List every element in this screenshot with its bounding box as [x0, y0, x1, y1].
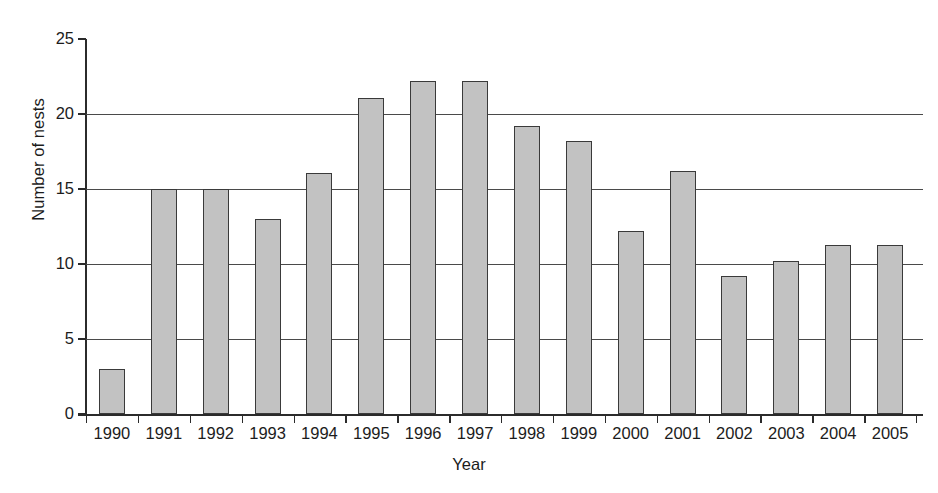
x-tick-8	[501, 415, 502, 423]
x-tick-label-1990: 1990	[84, 424, 140, 442]
bar-2003	[773, 261, 799, 414]
y-axis-title: Number of nests	[29, 60, 48, 260]
bar-1998	[514, 126, 540, 414]
x-tick-7	[449, 415, 450, 423]
y-tick-label-20: 20	[26, 105, 74, 122]
x-tick-label-2004: 2004	[810, 424, 866, 442]
x-tick-label-1998: 1998	[499, 424, 555, 442]
x-tick-label-1994: 1994	[291, 424, 347, 442]
x-tick-4	[294, 415, 295, 423]
x-tick-0	[86, 415, 87, 423]
bar-1999	[566, 141, 592, 414]
x-tick-label-1997: 1997	[447, 424, 503, 442]
bar-1991	[151, 189, 177, 414]
bar-1997	[462, 81, 488, 414]
bar-1994	[306, 173, 332, 415]
y-tick-0	[78, 413, 86, 415]
y-tick-25	[78, 38, 86, 40]
x-tick-1	[138, 415, 139, 423]
x-tick-2	[190, 415, 191, 423]
x-tick-label-1992: 1992	[188, 424, 244, 442]
y-axis-line	[85, 39, 87, 415]
y-tick-10	[78, 263, 86, 265]
y-tick-5	[78, 338, 86, 340]
y-tick-label-0: 0	[26, 405, 74, 422]
x-tick-10	[605, 415, 606, 423]
x-tick-label-1993: 1993	[240, 424, 296, 442]
x-axis-title: Year	[0, 455, 938, 474]
x-tick-label-2002: 2002	[706, 424, 762, 442]
bar-1992	[203, 189, 229, 414]
x-tick-label-2005: 2005	[862, 424, 918, 442]
y-tick-label-25: 25	[26, 30, 74, 47]
x-tick-5	[345, 415, 346, 423]
bar-2000	[618, 231, 644, 414]
x-tick-6	[397, 415, 398, 423]
x-tick-15	[864, 415, 865, 423]
y-tick-20	[78, 113, 86, 115]
x-tick-label-1999: 1999	[551, 424, 607, 442]
x-tick-label-2003: 2003	[758, 424, 814, 442]
bar-1996	[410, 81, 436, 414]
x-tick-9	[553, 415, 554, 423]
bar-1990	[99, 369, 125, 414]
y-tick-label-5: 5	[26, 330, 74, 347]
x-tick-label-1995: 1995	[343, 424, 399, 442]
x-tick-label-1991: 1991	[136, 424, 192, 442]
bar-1995	[358, 98, 384, 415]
x-tick-12	[709, 415, 710, 423]
bar-1993	[255, 219, 281, 414]
bar-2001	[670, 171, 696, 414]
bar-2005	[877, 245, 903, 415]
y-tick-label-15: 15	[26, 180, 74, 197]
bar-chart: Number of nests Year 0510152025 19901991…	[0, 0, 938, 493]
x-tick-label-2000: 2000	[603, 424, 659, 442]
gridline-20	[86, 114, 923, 115]
x-tick-label-2001: 2001	[655, 424, 711, 442]
x-tick-label-1996: 1996	[395, 424, 451, 442]
bar-2004	[825, 245, 851, 415]
x-tick-14	[812, 415, 813, 423]
x-tick-13	[760, 415, 761, 423]
x-tick-16	[916, 415, 917, 423]
y-tick-label-10: 10	[26, 255, 74, 272]
bar-2002	[721, 276, 747, 414]
x-tick-3	[242, 415, 243, 423]
y-tick-15	[78, 188, 86, 190]
x-tick-11	[657, 415, 658, 423]
